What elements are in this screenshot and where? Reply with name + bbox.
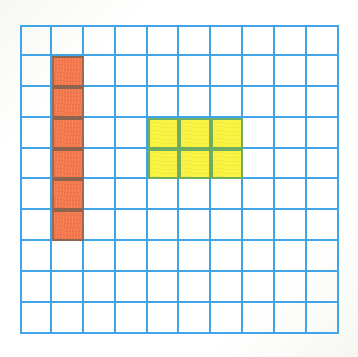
grid-cell[interactable]	[84, 210, 116, 241]
grid-cell[interactable]	[243, 210, 275, 241]
grid-cell-yellow[interactable]	[148, 118, 180, 149]
grid-cell[interactable]	[84, 241, 116, 272]
grid-cell-yellow[interactable]	[148, 149, 180, 180]
grid-cell[interactable]	[275, 303, 307, 334]
grid-cell[interactable]	[307, 118, 339, 149]
grid-cell[interactable]	[20, 272, 52, 303]
grid-cell[interactable]	[84, 272, 116, 303]
grid-cell[interactable]	[179, 179, 211, 210]
grid-cell[interactable]	[307, 179, 339, 210]
grid-cell[interactable]	[275, 241, 307, 272]
grid-cell[interactable]	[275, 210, 307, 241]
grid-cell[interactable]	[179, 25, 211, 56]
grid-cell[interactable]	[275, 149, 307, 180]
grid-cell-orange[interactable]	[52, 210, 84, 241]
grid-cell[interactable]	[211, 87, 243, 118]
grid-cell[interactable]	[84, 87, 116, 118]
grid-cell[interactable]	[20, 118, 52, 149]
grid-cell[interactable]	[116, 241, 148, 272]
grid-cell[interactable]	[307, 272, 339, 303]
grid-cell[interactable]	[179, 303, 211, 334]
grid-cell[interactable]	[116, 149, 148, 180]
grid-cell[interactable]	[52, 25, 84, 56]
grid-cell[interactable]	[116, 87, 148, 118]
grid-cell-yellow[interactable]	[211, 118, 243, 149]
grid-cell[interactable]	[84, 179, 116, 210]
grid-cell[interactable]	[243, 56, 275, 87]
grid-cell[interactable]	[307, 149, 339, 180]
grid-cell[interactable]	[20, 241, 52, 272]
grid-cell[interactable]	[179, 241, 211, 272]
grid-cell[interactable]	[211, 56, 243, 87]
grid-cell[interactable]	[275, 87, 307, 118]
grid-cell[interactable]	[307, 210, 339, 241]
grid-cell[interactable]	[116, 25, 148, 56]
grid-cell[interactable]	[84, 56, 116, 87]
grid-cell-orange[interactable]	[52, 56, 84, 87]
grid-cell[interactable]	[307, 241, 339, 272]
grid-cell[interactable]	[179, 56, 211, 87]
grid-cell-yellow[interactable]	[179, 118, 211, 149]
grid-cell[interactable]	[148, 272, 180, 303]
grid-cell[interactable]	[243, 25, 275, 56]
grid-cell[interactable]	[307, 303, 339, 334]
grid-cell[interactable]	[84, 149, 116, 180]
grid-cell-yellow[interactable]	[179, 149, 211, 180]
grid-cell[interactable]	[275, 118, 307, 149]
grid-cell[interactable]	[116, 56, 148, 87]
grid-cell-orange[interactable]	[52, 149, 84, 180]
grid-cell[interactable]	[116, 118, 148, 149]
grid-cell[interactable]	[116, 272, 148, 303]
grid-cell[interactable]	[20, 149, 52, 180]
grid-cell[interactable]	[84, 303, 116, 334]
grid-cell[interactable]	[20, 303, 52, 334]
grid-cell[interactable]	[148, 56, 180, 87]
grid-cell[interactable]	[211, 241, 243, 272]
grid-cell[interactable]	[243, 87, 275, 118]
grid-cell[interactable]	[211, 303, 243, 334]
grid-cell[interactable]	[84, 118, 116, 149]
grid-cell[interactable]	[211, 272, 243, 303]
grid-cell[interactable]	[148, 241, 180, 272]
grid-cell[interactable]	[179, 210, 211, 241]
grid-cell[interactable]	[84, 25, 116, 56]
grid-cell[interactable]	[179, 87, 211, 118]
grid-cell-yellow[interactable]	[211, 149, 243, 180]
grid-cell-orange[interactable]	[52, 179, 84, 210]
grid-cell[interactable]	[52, 272, 84, 303]
grid-cell[interactable]	[116, 210, 148, 241]
grid-cell[interactable]	[307, 25, 339, 56]
grid-cell[interactable]	[20, 25, 52, 56]
grid-cell[interactable]	[211, 210, 243, 241]
grid-cell[interactable]	[275, 25, 307, 56]
grid-cell[interactable]	[20, 210, 52, 241]
grid-cell[interactable]	[243, 179, 275, 210]
grid-cell[interactable]	[211, 179, 243, 210]
grid-cell[interactable]	[307, 56, 339, 87]
grid-cell[interactable]	[275, 179, 307, 210]
grid-cell[interactable]	[275, 56, 307, 87]
grid-cell[interactable]	[20, 179, 52, 210]
grid-cell[interactable]	[148, 87, 180, 118]
grid-cell[interactable]	[307, 87, 339, 118]
grid-cell[interactable]	[20, 56, 52, 87]
grid-cell[interactable]	[148, 25, 180, 56]
grid-cell[interactable]	[275, 272, 307, 303]
square-grid[interactable]	[20, 25, 339, 334]
grid-cell[interactable]	[148, 303, 180, 334]
grid-cell[interactable]	[116, 303, 148, 334]
grid-cell[interactable]	[243, 303, 275, 334]
grid-cell[interactable]	[116, 179, 148, 210]
grid-cell[interactable]	[243, 118, 275, 149]
grid-cell[interactable]	[243, 241, 275, 272]
grid-cell-orange[interactable]	[52, 87, 84, 118]
grid-cell[interactable]	[243, 272, 275, 303]
grid-cell[interactable]	[179, 272, 211, 303]
grid-cell[interactable]	[148, 210, 180, 241]
grid-cell[interactable]	[243, 149, 275, 180]
grid-cell[interactable]	[211, 25, 243, 56]
grid-cell[interactable]	[148, 179, 180, 210]
grid-cell[interactable]	[52, 303, 84, 334]
grid-cell[interactable]	[20, 87, 52, 118]
grid-cell[interactable]	[52, 241, 84, 272]
